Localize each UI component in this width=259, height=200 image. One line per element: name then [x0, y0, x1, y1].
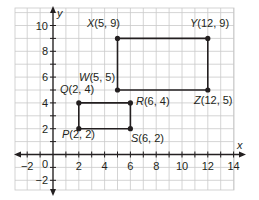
point-label-s: S(6, 2) — [131, 132, 164, 144]
point-w — [115, 87, 120, 92]
y-tick-label: 2 — [42, 123, 48, 135]
x-tick-label: 14 — [227, 160, 239, 172]
coordinate-plane: −22468101214108642−2 P(2, 2)Q(2, 4)R(6, … — [0, 0, 259, 200]
x-tick-label: 12 — [202, 160, 214, 172]
point-label-w: W(5, 5) — [79, 71, 115, 83]
y-axis-label: y — [56, 7, 64, 19]
y-axis-arrow-down-icon — [50, 189, 56, 196]
x-tick-label: 10 — [176, 160, 188, 172]
x-axis-label: x — [236, 139, 243, 151]
x-tick-label: 8 — [153, 160, 159, 172]
point-x — [115, 36, 120, 41]
point-s — [128, 126, 133, 131]
y-tick-label: 6 — [42, 71, 48, 83]
y-tick-label: 10 — [36, 20, 48, 32]
x-tick-label: 2 — [76, 160, 82, 172]
point-label-p: P(2, 2) — [62, 128, 95, 140]
point-label-x: X(5, 9) — [86, 17, 120, 29]
point-z — [205, 87, 210, 92]
y-tick-label: 4 — [42, 97, 48, 109]
point-label-y: Y(12, 9) — [190, 17, 229, 29]
point-labels: P(2, 2)Q(2, 4)R(6, 4)S(6, 2)W(5, 5)X(5, … — [60, 17, 233, 144]
origin-label: 0 — [42, 158, 48, 170]
y-tick-label: 8 — [42, 45, 48, 57]
x-axis-arrow-right-icon — [239, 152, 246, 158]
x-tick-label: 6 — [127, 160, 133, 172]
point-q — [76, 100, 81, 105]
y-tick-label: −2 — [35, 174, 48, 186]
point-label-q: Q(2, 4) — [60, 83, 94, 95]
point-r — [128, 100, 133, 105]
x-tick-label: 4 — [102, 160, 108, 172]
point-label-r: R(6, 4) — [136, 95, 170, 107]
point-y — [205, 36, 210, 41]
y-axis-arrow-up-icon — [50, 6, 56, 13]
point-label-z: Z(12, 5) — [193, 94, 233, 106]
x-tick-label: −2 — [21, 160, 34, 172]
